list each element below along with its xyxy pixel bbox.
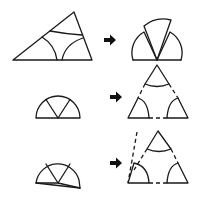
right-arrow-icon: [104, 35, 116, 46]
row-1-right-half-disc: [132, 19, 182, 60]
right-arrow-icon: [110, 92, 122, 103]
dashed-side-right: [171, 149, 178, 163]
sector-bottom-right: [167, 98, 188, 118]
sector-top: [145, 65, 169, 87]
arc-top-corner: [50, 31, 82, 35]
row-3-arrow: [110, 158, 122, 169]
dashed-side-right: [169, 84, 178, 98]
sector-bottom-left: [128, 163, 149, 183]
row-2-arrow: [110, 92, 122, 103]
dashed-side-left: [138, 84, 145, 98]
half-disc-outline: [36, 96, 80, 118]
right-arrow-icon: [110, 158, 122, 169]
half-disc-outline: [36, 164, 80, 188]
row-3-left-half-disc: [36, 164, 80, 188]
triangle-angle-sum-diagram: [0, 0, 202, 199]
dashed-side-left-inner: [134, 149, 147, 170]
arc-right-corner: [62, 38, 83, 60]
row-1-arrow: [104, 35, 116, 46]
half-disc-dividers: [46, 164, 70, 183]
half-disc-dividers: [46, 100, 70, 119]
arc-left-corner: [42, 37, 57, 60]
row-2-left-half-disc: [36, 96, 80, 118]
row-1-left-triangle: [13, 12, 92, 60]
triangle-outline: [13, 12, 92, 60]
row-2-right-triangle: [128, 65, 188, 118]
sector-right: [157, 32, 182, 60]
sector-bottom-right: [167, 163, 188, 183]
dashed-side-left-outer: [128, 132, 137, 183]
sector-top: [147, 131, 171, 152]
row-3-right-triangle: [128, 131, 188, 183]
sector-left: [132, 32, 157, 60]
sector-bottom-left: [128, 98, 149, 118]
